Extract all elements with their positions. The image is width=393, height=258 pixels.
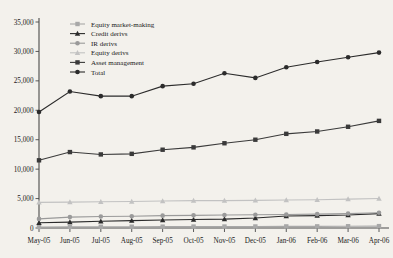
data-point: [99, 225, 103, 229]
data-point: [315, 224, 319, 228]
legend-marker: [75, 41, 80, 46]
y-tick-label: 0: [30, 225, 34, 233]
legend-label: Asset management: [91, 59, 144, 67]
x-tick-label: Aug-05: [121, 237, 143, 245]
data-point: [68, 225, 72, 229]
data-point: [37, 158, 41, 162]
y-tick-label: 30,000: [14, 48, 34, 56]
legend-label: Equity market-making: [91, 21, 155, 29]
x-tick-label: Apr-06: [369, 237, 390, 245]
x-tick-label: Nov-05: [213, 237, 235, 245]
x-tick-label: Dec-05: [245, 237, 267, 245]
y-tick-label: 35,000: [14, 19, 34, 27]
series-line-asset-management: [39, 121, 379, 160]
data-point: [160, 224, 164, 228]
legend-label: Equity derivs: [91, 49, 129, 57]
data-point: [346, 125, 350, 129]
data-point: [315, 60, 320, 65]
data-point: [284, 212, 289, 217]
data-point: [130, 152, 134, 156]
data-point: [377, 50, 382, 55]
data-point: [346, 55, 351, 60]
data-point: [315, 129, 319, 133]
x-tick-label: Feb-06: [307, 237, 328, 245]
data-point: [160, 84, 165, 89]
data-point: [253, 76, 258, 81]
y-tick-label: 15,000: [14, 136, 34, 144]
x-tick-label: Oct-05: [184, 237, 204, 245]
x-tick-label: Jun-05: [60, 237, 80, 245]
data-point: [68, 89, 73, 94]
x-tick-label: Jul-05: [92, 237, 110, 245]
legend-marker: [75, 22, 79, 26]
x-tick-label: Mar-06: [337, 237, 359, 245]
data-point: [377, 210, 382, 215]
y-tick-label: 5,000: [17, 195, 34, 203]
data-point: [377, 224, 381, 228]
data-point: [315, 212, 320, 217]
x-tick-label: Sep-05: [152, 237, 173, 245]
data-point: [377, 119, 381, 123]
data-point: [191, 224, 195, 228]
data-point: [284, 224, 288, 228]
data-point: [191, 145, 195, 149]
data-point: [160, 213, 165, 218]
series-line-equity-market-making: [39, 226, 379, 227]
data-point: [160, 148, 164, 152]
data-point: [37, 110, 42, 115]
series-line-equity-derivs: [39, 199, 379, 203]
data-point: [191, 213, 196, 218]
legend-label: Total: [91, 69, 105, 77]
data-point: [68, 150, 72, 154]
data-point: [99, 152, 103, 156]
data-point: [222, 141, 226, 145]
data-point: [99, 94, 104, 99]
data-point: [37, 217, 42, 222]
x-tick-label: Jan-06: [277, 237, 297, 245]
legend-marker: [75, 60, 79, 64]
data-point: [346, 224, 350, 228]
data-point: [99, 214, 104, 219]
data-point: [222, 71, 227, 76]
data-point: [68, 215, 73, 220]
x-tick-label: May-05: [28, 237, 51, 245]
data-point: [191, 82, 196, 87]
data-point: [284, 65, 289, 70]
data-point: [130, 225, 134, 229]
data-point: [129, 214, 134, 219]
data-point: [253, 212, 258, 217]
data-point: [253, 138, 257, 142]
y-tick-label: 10,000: [14, 166, 34, 174]
line-chart: 05,00010,00015,00020,00025,00030,00035,0…: [0, 0, 393, 258]
data-point: [346, 211, 351, 216]
chart-canvas: 05,00010,00015,00020,00025,00030,00035,0…: [0, 0, 393, 258]
data-point: [253, 224, 257, 228]
data-point: [37, 225, 41, 229]
y-tick-label: 25,000: [14, 77, 34, 85]
legend-label: IR derivs: [91, 40, 117, 48]
y-tick-label: 20,000: [14, 107, 34, 115]
legend-marker: [75, 70, 80, 75]
legend-label: Credit derivs: [91, 30, 128, 38]
data-point: [222, 213, 227, 218]
series-line-total: [39, 53, 379, 112]
data-point: [129, 94, 134, 99]
data-point: [222, 224, 226, 228]
data-point: [284, 132, 288, 136]
